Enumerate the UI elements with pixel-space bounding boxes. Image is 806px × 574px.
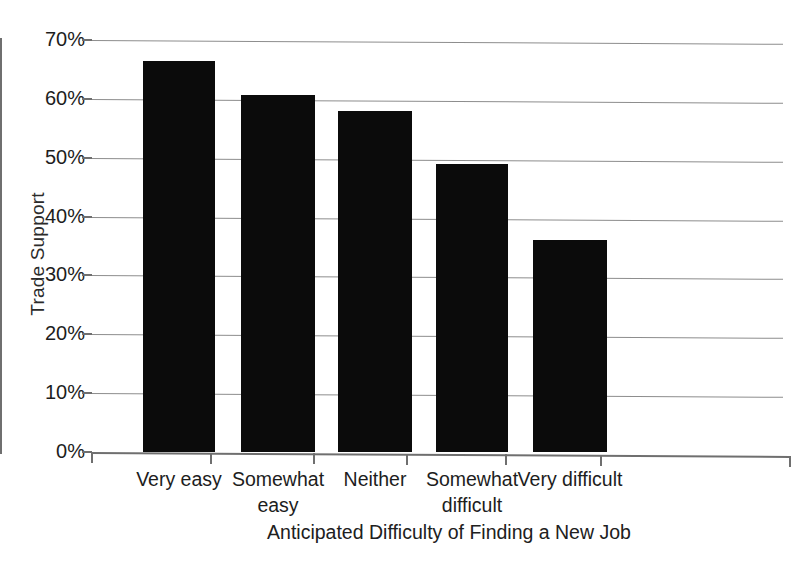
x-axis-tick-mark <box>505 454 507 465</box>
x-axis-tick-label-line1: Very difficult <box>518 468 623 490</box>
x-axis-tick-mark <box>210 453 212 464</box>
y-axis-tick-mark <box>82 392 92 394</box>
x-axis-tick-mark <box>91 452 93 463</box>
y-axis-tick-mark <box>82 333 92 335</box>
x-axis-tick-mark <box>600 455 602 466</box>
y-axis-tick-mark <box>82 274 92 276</box>
y-axis-tick-mark <box>82 39 92 41</box>
x-axis-tick-label-line2: difficult <box>392 492 552 518</box>
x-axis-tick-label-line2: easy <box>198 492 358 518</box>
x-axis-tick-mark <box>406 454 408 465</box>
y-axis-tick-mark <box>82 451 92 453</box>
bar-chart: Trade Support 0%10%20%30%40%50%60%70% Ve… <box>0 0 806 574</box>
x-axis-tick-mark <box>313 453 315 464</box>
x-axis-tick-labels: Very easySomewhateasyNeitherSomewhatdiff… <box>91 466 790 528</box>
y-axis-tick-mark <box>82 157 92 159</box>
y-axis-tick-mark <box>82 216 92 218</box>
y-axis-tick-mark <box>82 98 92 100</box>
x-axis-tick-label: Very difficult <box>490 466 650 492</box>
x-axis-title: Anticipated Difficulty of Finding a New … <box>91 521 806 544</box>
